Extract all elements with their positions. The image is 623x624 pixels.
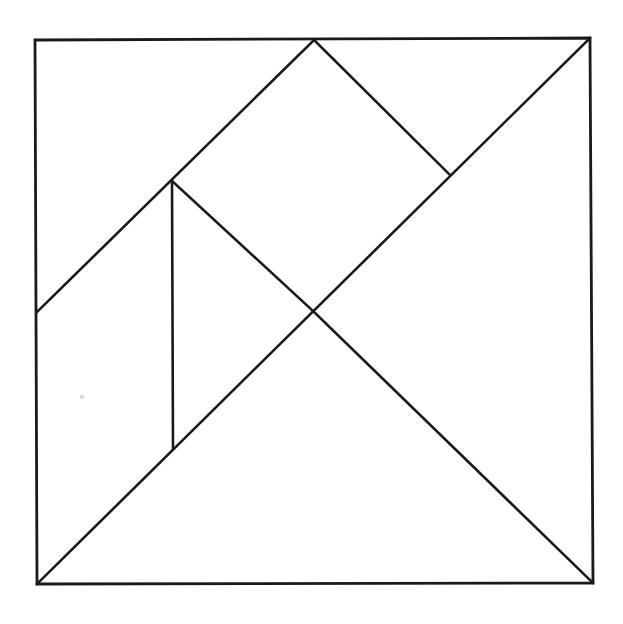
tangram-figure-container <box>0 0 623 624</box>
tangram-diagram <box>0 0 623 624</box>
line-vertical-divider <box>172 181 173 448</box>
scan-speck-artifact <box>80 395 84 399</box>
